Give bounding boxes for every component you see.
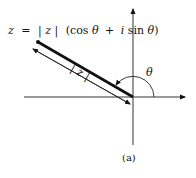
formula-plus: +	[105, 24, 114, 37]
angle-arc	[116, 76, 154, 97]
formula-sin: sin	[128, 24, 144, 37]
point-z	[36, 40, 40, 44]
formula-modulus: | z |	[38, 24, 58, 37]
formula-close: )	[154, 24, 158, 37]
angle-theta-label: θ	[146, 66, 153, 79]
formula-theta-1: θ	[92, 24, 99, 37]
formula-equals: =	[21, 24, 30, 37]
figure-caption: (a)	[122, 152, 136, 163]
formula-i: i	[121, 24, 125, 37]
formula-cos: (cos	[66, 24, 89, 37]
formula-lhs: z	[8, 24, 14, 37]
polar-form-equation: z = | z | (cos θ + i sin θ)	[8, 24, 159, 37]
